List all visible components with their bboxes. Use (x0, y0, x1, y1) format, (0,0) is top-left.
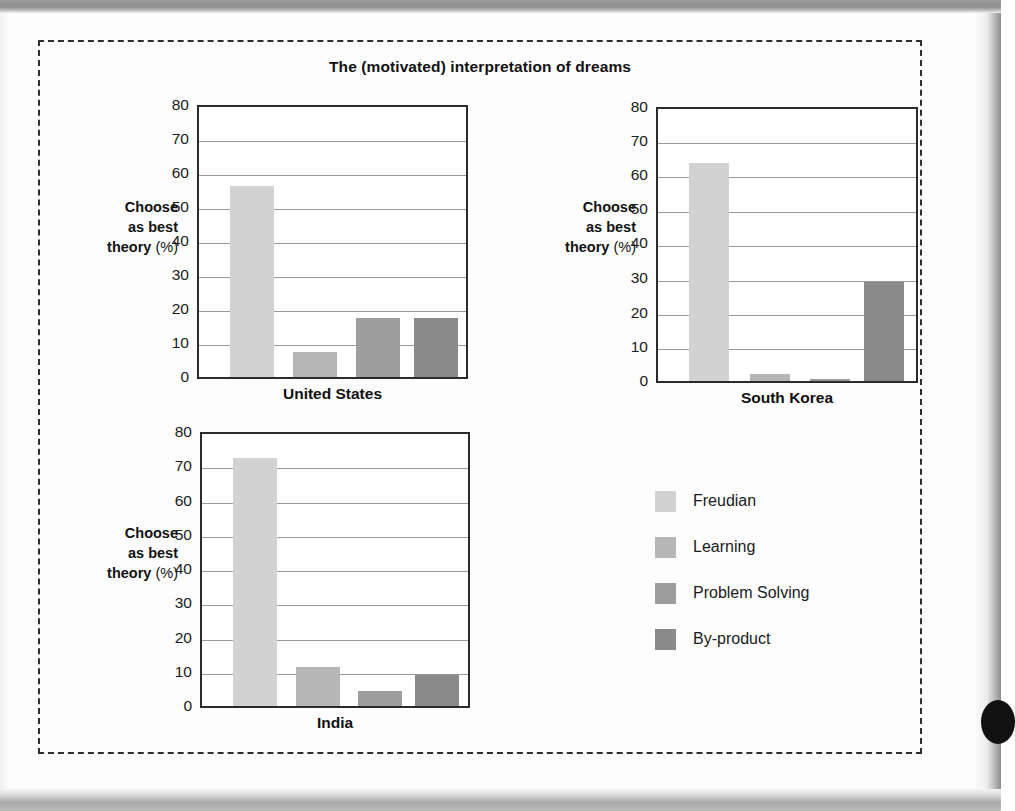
y-tick: 40 (175, 561, 192, 577)
legend-swatch-learning (655, 537, 676, 558)
plot-area-us (197, 105, 468, 379)
axis-title-line3-us: theory (107, 239, 151, 255)
legend-item-by-product: By-product (655, 616, 810, 662)
y-tick: 10 (631, 339, 648, 355)
bar-india-by-product (415, 675, 459, 706)
y-tick: 40 (172, 233, 189, 249)
bar-india-problem-solving (358, 691, 402, 706)
figure-title: The (motivated) interpretation of dreams (38, 58, 922, 76)
scan-top-shadow-band (0, 0, 1001, 13)
bar-india-freudian (233, 458, 277, 706)
legend-label-learning: Learning (693, 538, 755, 556)
y-axis-ticks-india: 80 70 60 50 40 30 20 10 0 (158, 432, 192, 706)
gridline (199, 175, 466, 176)
y-tick: 20 (631, 305, 648, 321)
y-tick: 80 (172, 97, 189, 113)
y-tick: 0 (183, 698, 192, 714)
panel-label-korea: South Korea (656, 389, 918, 407)
gridline (658, 143, 916, 144)
panel-label-us: United States (197, 385, 468, 403)
bar-korea-freudian (689, 163, 729, 381)
y-tick: 60 (172, 165, 189, 181)
legend-label-problem-solving: Problem Solving (693, 584, 810, 602)
y-tick: 50 (172, 199, 189, 215)
plot-area-india (200, 432, 470, 708)
legend-swatch-by-product (655, 629, 676, 650)
y-tick: 0 (639, 373, 648, 389)
legend-label-by-product: By-product (693, 630, 770, 648)
legend-swatch-freudian (655, 491, 676, 512)
bar-korea-by-product (864, 282, 904, 381)
y-tick: 0 (180, 369, 189, 385)
y-axis-ticks-korea: 80 70 60 50 40 30 20 10 0 (614, 107, 648, 381)
legend: Freudian Learning Problem Solving By-pro… (655, 478, 810, 662)
y-tick: 10 (175, 664, 192, 680)
gridline (199, 141, 466, 142)
y-tick: 70 (175, 458, 192, 474)
y-tick: 80 (175, 424, 192, 440)
legend-item-freudian: Freudian (655, 478, 810, 524)
bar-us-by-product (414, 318, 458, 377)
bar-us-freudian (230, 186, 274, 377)
bar-us-learning (293, 352, 337, 377)
legend-item-learning: Learning (655, 524, 810, 570)
y-tick: 50 (631, 201, 648, 217)
legend-swatch-problem-solving (655, 583, 676, 604)
bar-us-problem-solving (356, 318, 400, 377)
panel-label-india: India (200, 714, 470, 732)
scan-right-page-edge (975, 13, 1001, 789)
y-tick: 20 (172, 301, 189, 317)
axis-title-line3-korea: theory (565, 239, 609, 255)
y-tick: 30 (631, 270, 648, 286)
y-tick: 70 (631, 133, 648, 149)
y-tick: 40 (631, 235, 648, 251)
scan-bottom-shadow-band (0, 789, 1001, 811)
axis-title-line3-india: theory (107, 565, 151, 581)
y-tick: 10 (172, 335, 189, 351)
y-tick: 60 (175, 493, 192, 509)
bar-korea-learning (750, 374, 790, 381)
y-tick: 20 (175, 630, 192, 646)
legend-label-freudian: Freudian (693, 492, 756, 510)
y-axis-ticks-us: 80 70 60 50 40 30 20 10 0 (155, 105, 189, 377)
bar-korea-problem-solving (810, 379, 850, 381)
y-tick: 30 (172, 267, 189, 283)
plot-area-korea (656, 107, 918, 383)
y-tick: 80 (631, 99, 648, 115)
y-tick: 50 (175, 527, 192, 543)
bar-india-learning (296, 667, 340, 706)
y-tick: 60 (631, 167, 648, 183)
y-tick: 30 (175, 595, 192, 611)
legend-item-problem-solving: Problem Solving (655, 570, 810, 616)
y-tick: 70 (172, 131, 189, 147)
scan-left-shadow (0, 13, 10, 789)
scan-gutter-blob (981, 700, 1015, 744)
